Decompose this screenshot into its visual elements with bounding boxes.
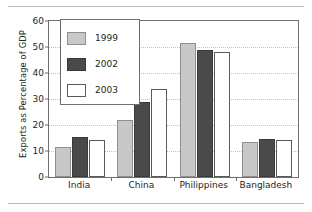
y-tick-label: 60 — [33, 17, 44, 26]
legend-swatch-2003 — [67, 84, 86, 97]
legend-swatch-1999 — [67, 32, 86, 45]
y-tick-label: 50 — [33, 43, 44, 52]
legend-swatch-2002 — [67, 58, 86, 71]
y-tick-label: 0 — [38, 173, 44, 182]
y-axis-title: Exports as Percentage of GDP — [18, 9, 28, 179]
legend-item-2003[interactable]: 2003 — [61, 84, 139, 97]
bar-philippines-1999[interactable] — [180, 43, 196, 177]
y-tick-label: 10 — [33, 147, 44, 156]
bar-bangladesh-2002[interactable] — [259, 139, 275, 177]
legend-item-2002[interactable]: 2002 — [61, 58, 139, 71]
bar-bangladesh-1999[interactable] — [242, 142, 258, 177]
bar-philippines-2002[interactable] — [197, 50, 213, 177]
legend-item-1999[interactable]: 1999 — [61, 32, 139, 45]
y-tick-label: 20 — [33, 121, 44, 130]
bar-india-2003[interactable] — [89, 140, 105, 177]
bar-chart-figure: Exports as Percentage of GDP 01020304050… — [0, 0, 312, 212]
legend-label-1999: 1999 — [95, 34, 118, 43]
y-tick-label: 40 — [33, 69, 44, 78]
chart-legend: 199920022003 — [60, 19, 140, 105]
bar-group-bangladesh — [236, 21, 298, 177]
bar-group-philippines — [174, 21, 236, 177]
y-tick-label: 30 — [33, 95, 44, 104]
bar-china-2002[interactable] — [134, 102, 150, 177]
x-tick-label-india: India — [48, 181, 110, 190]
x-axis-labels: IndiaChinaPhilippinesBangladesh — [48, 181, 297, 190]
bar-bangladesh-2003[interactable] — [276, 140, 292, 177]
bar-india-2002[interactable] — [72, 137, 88, 177]
bar-china-1999[interactable] — [117, 120, 133, 177]
bar-philippines-2003[interactable] — [214, 52, 230, 177]
x-tick-label-bangladesh: Bangladesh — [235, 181, 297, 190]
legend-label-2002: 2002 — [95, 60, 118, 69]
x-tick-label-china: China — [110, 181, 172, 190]
x-tick-label-philippines: Philippines — [173, 181, 235, 190]
bar-china-2003[interactable] — [151, 89, 167, 177]
bar-india-1999[interactable] — [55, 147, 71, 177]
legend-label-2003: 2003 — [95, 86, 118, 95]
